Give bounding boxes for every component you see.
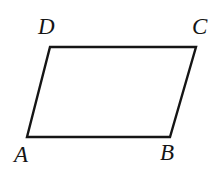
geometry-figure: D C A B [0, 0, 218, 172]
parallelogram-svg [0, 0, 218, 172]
vertex-label-b: B [160, 141, 174, 164]
vertex-label-c: C [192, 15, 207, 38]
vertex-label-d: D [38, 15, 55, 38]
vertex-label-a: A [14, 143, 28, 166]
